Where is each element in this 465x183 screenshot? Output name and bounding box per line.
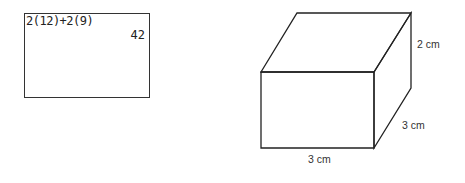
prism-front-face xyxy=(261,72,374,148)
width-label: 3 cm xyxy=(308,153,331,165)
height-label: 2 cm xyxy=(417,38,440,50)
prism-top-face xyxy=(261,13,411,72)
depth-label: 3 cm xyxy=(402,119,425,131)
rectangular-prism-diagram xyxy=(0,0,465,183)
